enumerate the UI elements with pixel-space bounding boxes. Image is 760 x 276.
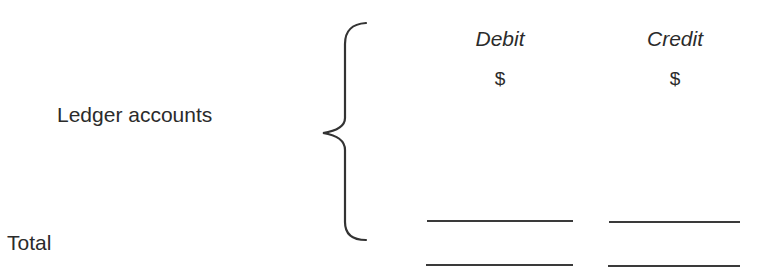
debit-total-rule <box>426 264 573 266</box>
credit-subtotal-rule <box>609 221 740 223</box>
debit-header: Debit <box>430 27 570 51</box>
credit-currency: $ <box>605 68 745 90</box>
credit-total-rule <box>608 265 740 267</box>
debit-currency: $ <box>430 68 570 90</box>
credit-header: Credit <box>605 27 745 51</box>
ledger-accounts-label: Ledger accounts <box>57 103 212 127</box>
total-label: Total <box>7 231 51 255</box>
debit-subtotal-rule <box>427 220 573 222</box>
